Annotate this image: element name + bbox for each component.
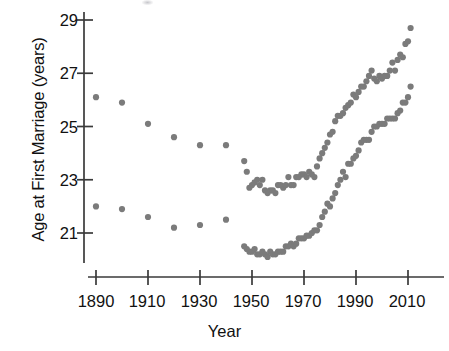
data-point — [366, 137, 372, 143]
data-point — [223, 142, 229, 148]
x-axis-tick-label-1950: 1950 — [223, 292, 279, 311]
data-point — [340, 169, 346, 175]
x-axis-tick-label-1990: 1990 — [327, 292, 383, 311]
data-point — [119, 99, 125, 105]
data-point — [327, 203, 333, 209]
x-axis-tick-label-1910: 1910 — [119, 292, 175, 311]
data-point — [257, 182, 263, 188]
data-point — [369, 67, 375, 73]
data-point — [241, 158, 247, 164]
data-point — [405, 94, 411, 100]
data-point — [314, 163, 320, 169]
x-axis-tick-label-2010: 2010 — [379, 292, 435, 311]
data-point — [272, 190, 278, 196]
data-point — [119, 206, 125, 212]
data-point — [171, 134, 177, 140]
data-point — [314, 227, 320, 233]
data-point — [369, 129, 375, 135]
x-axis-title: Year — [0, 322, 449, 341]
data-point — [392, 67, 398, 73]
data-point — [259, 177, 265, 183]
data-point — [223, 217, 229, 223]
data-point — [332, 190, 338, 196]
data-point — [330, 129, 336, 135]
data-point — [319, 214, 325, 220]
data-point — [356, 89, 362, 95]
data-point — [400, 54, 406, 60]
data-point — [353, 94, 359, 100]
data-point — [348, 99, 354, 105]
data-point — [405, 38, 411, 44]
data-point — [197, 142, 203, 148]
x-axis-tick-label-1930: 1930 — [171, 292, 227, 311]
data-point — [330, 195, 336, 201]
y-axis-title: Age at First Marriage (years) — [29, 10, 48, 270]
data-point — [348, 161, 354, 167]
data-point — [382, 121, 388, 127]
data-point — [319, 150, 325, 156]
data-point — [353, 153, 359, 159]
data-point — [384, 73, 390, 79]
data-point — [285, 174, 291, 180]
data-point — [332, 118, 338, 124]
data-point — [280, 249, 286, 255]
axes-layer — [77, 12, 444, 285]
data-point — [171, 225, 177, 231]
data-point — [408, 83, 414, 89]
data-point — [402, 99, 408, 105]
chart-container: 29 27 25 23 21 1890 1910 1930 1950 1970 … — [0, 0, 449, 351]
data-point — [293, 241, 299, 247]
data-point — [322, 209, 328, 215]
data-point — [392, 115, 398, 121]
data-point — [291, 182, 297, 188]
data-point — [145, 121, 151, 127]
data-point — [361, 83, 367, 89]
data-point — [408, 25, 414, 31]
data-point — [252, 246, 258, 252]
data-point — [343, 174, 349, 180]
data-point — [197, 222, 203, 228]
data-points-layer — [93, 25, 414, 260]
data-point — [145, 214, 151, 220]
data-point — [363, 78, 369, 84]
data-point — [322, 145, 328, 151]
data-point — [356, 147, 362, 153]
data-point — [335, 182, 341, 188]
data-point — [311, 174, 317, 180]
data-point — [93, 203, 99, 209]
x-axis-tick-label-1890: 1890 — [68, 292, 124, 311]
data-point — [317, 155, 323, 161]
data-point — [93, 94, 99, 100]
data-point — [397, 107, 403, 113]
data-point — [324, 139, 330, 145]
data-point — [340, 110, 346, 116]
data-point — [244, 169, 250, 175]
data-point — [317, 222, 323, 228]
x-axis-tick-label-1970: 1970 — [275, 292, 331, 311]
